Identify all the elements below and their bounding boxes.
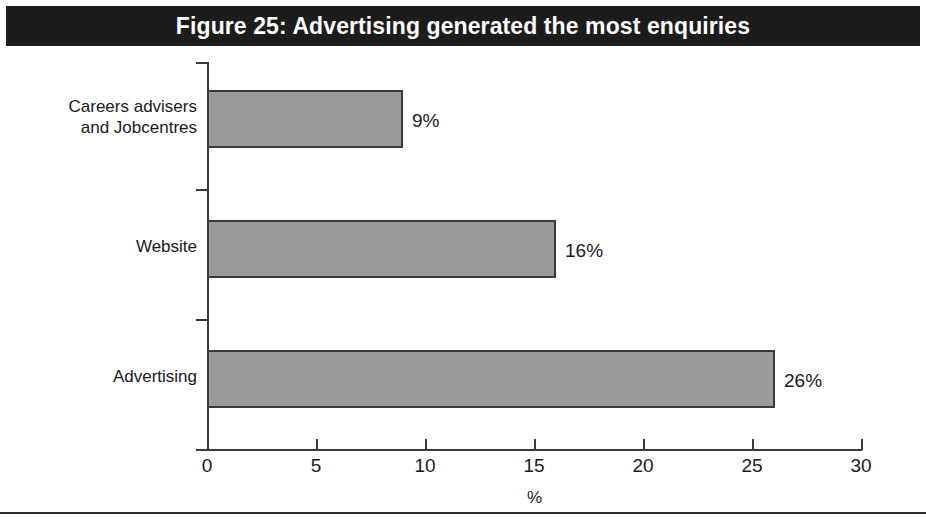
bar-value-advertising: 26%	[784, 371, 822, 390]
x-axis-tick-15	[534, 439, 536, 450]
x-axis-title: %	[207, 489, 862, 506]
bar-value-careers-advisers: 9%	[412, 111, 439, 130]
category-label-advertising: Advertising	[0, 366, 197, 387]
x-axis-tick-30	[861, 439, 863, 450]
y-axis-tick-top	[196, 62, 208, 64]
x-axis-tick-5	[316, 439, 318, 450]
y-axis-tick-1	[196, 189, 208, 191]
y-axis-tick-2	[196, 319, 208, 321]
bar-advertising	[207, 350, 775, 408]
bar-careers-advisers	[207, 90, 403, 148]
bottom-divider	[0, 512, 926, 514]
bar-value-website: 16%	[565, 241, 603, 260]
bar-website	[207, 220, 556, 278]
x-axis-label-30: 30	[831, 456, 891, 475]
x-axis-label-15: 15	[504, 456, 564, 475]
category-label-careers-advisers: Careers advisers and Jobcentres	[0, 96, 197, 139]
x-axis-tick-20	[643, 439, 645, 450]
x-axis-label-25: 25	[722, 456, 782, 475]
x-axis-label-5: 5	[286, 456, 346, 475]
x-axis-label-10: 10	[395, 456, 455, 475]
x-axis-label-0: 0	[177, 456, 237, 475]
figure-container: Figure 25: Advertising generated the mos…	[0, 0, 926, 521]
category-label-website: Website	[0, 236, 197, 257]
bar-chart: Careers advisers and Jobcentres Website …	[0, 46, 926, 521]
x-axis-label-20: 20	[613, 456, 673, 475]
figure-title-banner: Figure 25: Advertising generated the mos…	[6, 6, 920, 46]
x-axis-tick-25	[752, 439, 754, 450]
x-axis-tick-0	[207, 439, 209, 450]
page-title: Figure 25: Advertising generated the mos…	[176, 15, 750, 38]
x-axis-tick-10	[425, 439, 427, 450]
